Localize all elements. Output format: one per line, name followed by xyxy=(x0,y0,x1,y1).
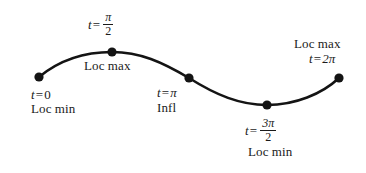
point-t-3pi-over-2 xyxy=(262,100,271,109)
point-t-pi-over-2 xyxy=(107,47,116,56)
equals-sign: = xyxy=(92,17,101,32)
point-t-2pi xyxy=(334,73,343,82)
curve-figure: t=0 Loc min t=π2 Loc max t=π Infl t=3π2 … xyxy=(0,0,366,173)
point-t0 xyxy=(34,72,43,81)
label-loc-min-trough: Loc min xyxy=(248,145,292,159)
label-inflection: Infl xyxy=(157,101,176,115)
fraction-numerator: 3π xyxy=(260,117,276,129)
fraction-3pi-over-2: 3π2 xyxy=(260,117,276,143)
fraction-denominator: 2 xyxy=(260,131,276,143)
label-t-equals-0: t=0 xyxy=(31,88,51,102)
equals-sign: = xyxy=(249,123,258,138)
t-value: 2π xyxy=(322,51,335,66)
label-t-equals-pi: t=π xyxy=(157,86,177,100)
fraction-numerator: π xyxy=(103,11,113,23)
label-t-equals-pi-over-2: t=π2 xyxy=(88,11,113,37)
t-value: π xyxy=(170,85,177,100)
curve-graphic xyxy=(0,0,366,173)
label-loc-max-peak: Loc max xyxy=(84,59,131,73)
point-t-pi xyxy=(184,73,193,82)
fraction-pi-over-2: π2 xyxy=(103,11,113,37)
fraction-denominator: 2 xyxy=(103,25,113,37)
t-value: 0 xyxy=(44,87,51,102)
label-t-equals-2pi: t=2π xyxy=(309,52,335,66)
label-loc-max-end: Loc max xyxy=(294,37,341,51)
equals-sign: = xyxy=(35,87,44,102)
label-loc-min-start: Loc min xyxy=(31,102,75,116)
equals-sign: = xyxy=(161,85,170,100)
equals-sign: = xyxy=(313,51,322,66)
label-t-equals-3pi-over-2: t=3π2 xyxy=(245,117,276,143)
